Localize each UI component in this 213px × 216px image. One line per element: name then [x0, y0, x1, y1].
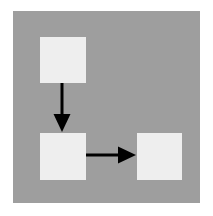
node-middle-left[interactable] — [40, 133, 86, 180]
diagram-canvas — [0, 0, 213, 216]
node-middle-right[interactable] — [137, 133, 182, 180]
node-top-left[interactable] — [40, 37, 86, 83]
diagram-svg — [0, 0, 213, 216]
